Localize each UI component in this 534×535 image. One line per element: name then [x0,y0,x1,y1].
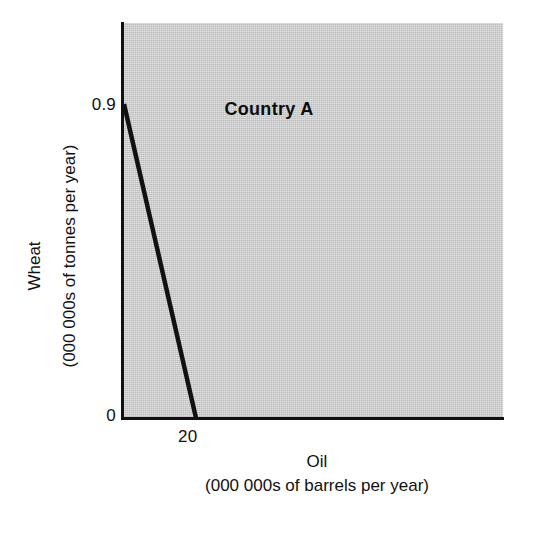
x-axis-title: Oil [122,452,512,472]
x-axis-line [121,417,504,420]
x-axis-tick-label-20: 20 [178,427,197,447]
x-axis-title-units: (000 000s of barrels per year) [122,476,512,496]
ppf-chart-figure: 0.9 0 20 Country A Oil (000 000s of barr… [0,0,534,535]
y-axis-title-units: (000 000s of tonnes per year) [59,111,81,401]
y-axis-line [121,22,124,420]
plot-area-shaded-region [122,23,503,418]
chart-region-title-text: Country A [224,99,313,119]
y-axis-tick-label-0: 0 [106,406,116,426]
y-axis-title: Wheat [24,186,46,346]
